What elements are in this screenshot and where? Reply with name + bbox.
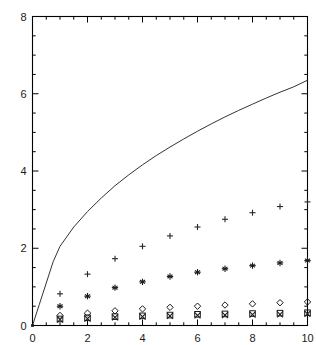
data-point bbox=[167, 304, 173, 310]
origin-point bbox=[31, 324, 34, 327]
series-cross-series bbox=[57, 311, 311, 323]
data-point bbox=[222, 302, 228, 308]
data-point bbox=[194, 269, 200, 275]
square-marker bbox=[277, 310, 283, 316]
x-axis-tick-label: 8 bbox=[249, 332, 255, 344]
data-point bbox=[277, 204, 283, 210]
data-point bbox=[250, 210, 256, 216]
chart-container: 024681002468 bbox=[0, 0, 316, 345]
y-axis-tick-label: 4 bbox=[20, 165, 26, 177]
y-axis-tick-label: 2 bbox=[20, 242, 26, 254]
data-point bbox=[277, 310, 283, 316]
data-point bbox=[57, 303, 63, 309]
data-point bbox=[139, 279, 145, 285]
data-point bbox=[57, 291, 63, 297]
diamond-marker bbox=[249, 301, 255, 307]
data-point bbox=[222, 311, 228, 317]
y-axis-tick-label: 0 bbox=[20, 320, 26, 332]
diamond-marker bbox=[222, 302, 228, 308]
data-point bbox=[250, 311, 256, 317]
data-point bbox=[249, 262, 255, 268]
data-point bbox=[140, 243, 146, 249]
data-point bbox=[222, 216, 228, 222]
x-axis-tick-label: 6 bbox=[194, 332, 200, 344]
data-point bbox=[112, 284, 118, 290]
diamond-marker bbox=[139, 306, 145, 312]
diamond-marker bbox=[194, 303, 200, 309]
data-point bbox=[222, 266, 228, 272]
series-star-series bbox=[57, 257, 311, 309]
x-axis-tick-label: 4 bbox=[139, 332, 145, 344]
data-point bbox=[277, 260, 283, 266]
scatter-plot: 024681002468 bbox=[0, 0, 316, 345]
series-square-series bbox=[57, 310, 310, 322]
diamond-marker bbox=[112, 308, 118, 314]
data-point bbox=[167, 273, 173, 279]
square-marker bbox=[195, 311, 201, 317]
square-marker bbox=[222, 311, 228, 317]
data-point bbox=[194, 303, 200, 309]
data-point bbox=[139, 306, 145, 312]
y-axis-tick-label: 6 bbox=[20, 88, 26, 100]
data-point bbox=[195, 311, 201, 317]
series-plus-series bbox=[57, 199, 311, 297]
data-point bbox=[85, 271, 91, 277]
data-point bbox=[112, 256, 118, 262]
data-point bbox=[112, 308, 118, 314]
data-point bbox=[305, 199, 311, 205]
x-axis-tick-label: 2 bbox=[84, 332, 90, 344]
diamond-marker bbox=[277, 300, 283, 306]
square-marker bbox=[250, 311, 256, 317]
series-diamond-series bbox=[57, 299, 311, 319]
data-point bbox=[84, 293, 90, 299]
y-axis-tick-label: 8 bbox=[20, 11, 26, 23]
series-line-curve bbox=[33, 80, 308, 325]
data-point bbox=[249, 301, 255, 307]
data-point bbox=[167, 233, 173, 239]
data-point bbox=[304, 257, 310, 263]
x-axis-tick-label: 10 bbox=[301, 332, 313, 344]
data-point bbox=[195, 224, 201, 230]
diamond-marker bbox=[167, 304, 173, 310]
x-axis-tick-label: 0 bbox=[29, 332, 35, 344]
data-point bbox=[277, 300, 283, 306]
